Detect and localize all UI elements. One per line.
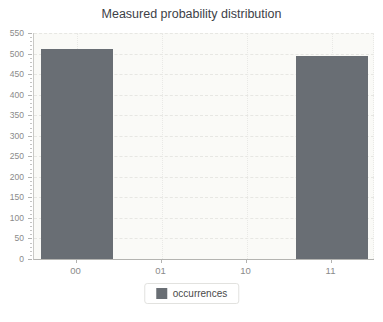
y-minor-tick: [30, 140, 32, 141]
y-minor-tick: [30, 70, 32, 71]
y-tick-label: 500: [10, 49, 24, 59]
y-minor-tick: [30, 99, 32, 100]
y-minor-tick: [30, 66, 32, 67]
y-minor-tick: [30, 247, 32, 248]
x-tick: [161, 260, 162, 263]
y-minor-tick: [30, 164, 32, 165]
y-axis: 050100150200250300350400450500550: [0, 33, 33, 259]
y-minor-tick: [30, 185, 32, 186]
y-tick-label: 400: [10, 90, 24, 100]
x-tick-label-01: 01: [141, 265, 181, 276]
legend-label: occurrences: [173, 288, 227, 299]
y-tick: [28, 218, 32, 219]
plot-area: [33, 33, 374, 260]
y-minor-tick: [30, 234, 32, 235]
y-tick: [28, 33, 32, 34]
y-tick: [28, 177, 32, 178]
y-tick-label: 250: [10, 151, 24, 161]
y-minor-tick: [30, 86, 32, 87]
x-tick: [76, 260, 77, 263]
legend-swatch: [156, 288, 167, 299]
y-tick: [28, 54, 32, 55]
y-minor-tick: [30, 243, 32, 244]
x-tick-label-11: 11: [311, 265, 351, 276]
y-tick-label: 550: [10, 28, 24, 38]
y-tick-label: 50: [15, 233, 24, 243]
y-minor-tick: [30, 206, 32, 207]
bar-11: [296, 56, 368, 259]
y-minor-tick: [30, 144, 32, 145]
y-minor-tick: [30, 181, 32, 182]
y-minor-tick: [30, 132, 32, 133]
gridline-v: [247, 33, 248, 259]
y-minor-tick: [30, 169, 32, 170]
y-minor-tick: [30, 226, 32, 227]
y-minor-tick: [30, 152, 32, 153]
x-axis: 00011011: [33, 260, 373, 280]
y-minor-tick: [30, 119, 32, 120]
y-minor-tick: [30, 123, 32, 124]
y-minor-tick: [30, 82, 32, 83]
y-minor-tick: [30, 189, 32, 190]
y-minor-tick: [30, 222, 32, 223]
x-tick: [331, 260, 332, 263]
y-minor-tick: [30, 103, 32, 104]
y-tick: [28, 238, 32, 239]
y-tick-label: 150: [10, 192, 24, 202]
y-minor-tick: [30, 148, 32, 149]
y-tick: [28, 259, 32, 260]
y-tick-label: 450: [10, 69, 24, 79]
chart-title: Measured probability distribution: [0, 7, 383, 21]
gridline-h: [34, 33, 374, 34]
y-minor-tick: [30, 78, 32, 79]
y-minor-tick: [30, 173, 32, 174]
y-tick: [28, 95, 32, 96]
y-tick: [28, 74, 32, 75]
gridline-v: [373, 33, 374, 259]
y-minor-tick: [30, 111, 32, 112]
y-tick: [28, 136, 32, 137]
y-minor-tick: [30, 37, 32, 38]
x-tick-label-00: 00: [56, 265, 96, 276]
y-minor-tick: [30, 41, 32, 42]
y-tick-label: 200: [10, 172, 24, 182]
y-tick-label: 100: [10, 213, 24, 223]
y-minor-tick: [30, 107, 32, 108]
y-tick-label: 350: [10, 110, 24, 120]
legend-item-occurrences[interactable]: occurrences: [144, 283, 239, 304]
y-tick-label: 300: [10, 131, 24, 141]
bar-00: [41, 49, 113, 259]
gridline-v: [162, 33, 163, 259]
y-minor-tick: [30, 251, 32, 252]
figure: Measured probability distribution 050100…: [0, 0, 383, 322]
y-minor-tick: [30, 230, 32, 231]
y-minor-tick: [30, 49, 32, 50]
y-tick: [28, 115, 32, 116]
y-minor-tick: [30, 91, 32, 92]
y-tick: [28, 197, 32, 198]
y-minor-tick: [30, 45, 32, 46]
y-minor-tick: [30, 58, 32, 59]
x-tick-label-10: 10: [226, 265, 266, 276]
y-tick: [28, 156, 32, 157]
y-tick-label: 0: [19, 254, 24, 264]
y-minor-tick: [30, 128, 32, 129]
x-tick: [246, 260, 247, 263]
y-minor-tick: [30, 193, 32, 194]
y-minor-tick: [30, 210, 32, 211]
y-minor-tick: [30, 62, 32, 63]
y-minor-tick: [30, 201, 32, 202]
y-minor-tick: [30, 214, 32, 215]
y-minor-tick: [30, 160, 32, 161]
y-minor-tick: [30, 255, 32, 256]
